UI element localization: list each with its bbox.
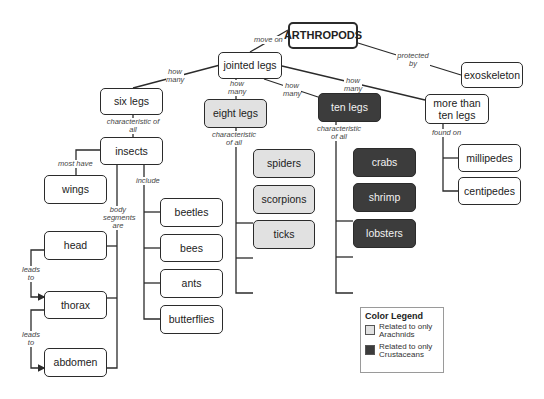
node-exoskeleton[interactable]: exoskeleton [461,62,523,88]
node-butterflies[interactable]: butterflies [160,305,223,334]
node-beetles[interactable]: beetles [160,198,223,227]
node-ants[interactable]: ants [160,269,223,298]
edge-insects-segments [107,165,117,368]
node-abdomen[interactable]: abdomen [44,348,107,377]
node-thorax[interactable]: thorax [44,291,107,319]
node-wings[interactable]: wings [44,175,107,204]
link-label-move-on: move on [254,36,283,44]
link-label-include: include [136,177,160,185]
legend-item-crustaceans: Related to only Crustaceans [365,343,439,360]
legend-item-arachnids: Related to only Arachnids [365,323,439,340]
node-scorpions[interactable]: scorpions [253,185,315,214]
node-bees[interactable]: bees [160,234,223,262]
node-head[interactable]: head [44,231,107,260]
node-jointed-legs[interactable]: jointed legs [218,52,282,79]
legend-swatch-crustaceans [365,345,375,355]
node-shrimp[interactable]: shrimp [353,183,416,212]
link-label-how-many-eight: how many [228,80,246,96]
node-crabs[interactable]: crabs [353,148,416,177]
link-label-most-have: most have [58,160,93,168]
link-label-body-segments-are: body segments are [103,206,133,230]
edge-eight-children [236,128,253,293]
link-label-char-ten: characteristic of all [313,125,365,141]
link-label-leads-to-1: leads to [21,266,41,282]
node-millipedes[interactable]: millipedes [458,144,521,172]
legend-label-arachnids: Related to only Arachnids [379,323,439,340]
color-legend: Color Legend Related to only Arachnids R… [360,307,444,373]
link-label-char-six: characteristic of all [104,118,162,134]
link-label-how-many-ten: how many [283,82,301,98]
legend-label-crustaceans: Related to only Crustaceans [379,343,439,360]
node-six-legs[interactable]: six legs [100,88,163,115]
node-eight-legs[interactable]: eight legs [204,99,267,128]
edge-ten-children [336,122,353,293]
node-arthropods[interactable]: ARTHROPODS [288,22,358,49]
node-insects[interactable]: insects [100,137,163,165]
link-label-leads-to-2: leads to [21,331,41,347]
node-ten-legs[interactable]: ten legs [318,93,381,122]
link-label-how-many-six: how many [166,68,184,84]
link-label-found-on: found on [432,129,461,137]
legend-swatch-arachnids [365,325,375,335]
node-ticks[interactable]: ticks [253,220,315,249]
link-label-how-many-more: how many [344,77,362,93]
node-more-than-ten-legs[interactable]: more than ten legs [425,94,489,124]
node-lobsters[interactable]: lobsters [353,219,416,248]
node-spiders[interactable]: spiders [253,149,315,178]
edge-insects-include [144,165,160,319]
legend-title: Color Legend [365,311,439,321]
concept-map: ARTHROPODS jointed legs exoskeleton six … [0,0,544,399]
node-centipedes[interactable]: centipedes [458,177,521,205]
link-label-protected-by: protected by [396,52,430,68]
link-label-char-eight: characteristic of all [208,131,260,147]
